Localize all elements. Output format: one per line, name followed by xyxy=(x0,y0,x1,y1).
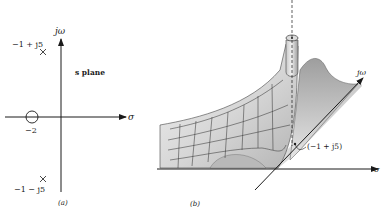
jw-axis-label: jω xyxy=(53,26,66,36)
plane-label: s plane xyxy=(75,68,105,77)
caption-b: (b) xyxy=(190,200,200,208)
panel-b-magnitude-surface: σ jω (−1 + j5) (b) xyxy=(157,0,380,208)
pole-annotation: (−1 + j5) xyxy=(307,142,342,151)
figure-canvas: jω σ −2 −1 + j5 −1 − j5 s plane (a) xyxy=(0,0,382,212)
panel-a-s-plane: jω σ −2 −1 + j5 −1 − j5 s plane (a) xyxy=(5,26,135,207)
pole-label-lower: −1 − j5 xyxy=(14,185,45,194)
pole-marker-lower xyxy=(40,176,46,182)
jw-axis-3d-label: jω xyxy=(355,68,366,77)
caption-a: (a) xyxy=(58,199,68,207)
sigma-axis-3d-label: σ xyxy=(374,165,380,174)
pole-marker-upper xyxy=(40,49,46,55)
zero-label: −2 xyxy=(25,126,37,135)
sigma-axis-label: σ xyxy=(128,112,135,122)
pole-label-upper: −1 + j5 xyxy=(12,40,43,49)
surface-main xyxy=(160,44,298,168)
